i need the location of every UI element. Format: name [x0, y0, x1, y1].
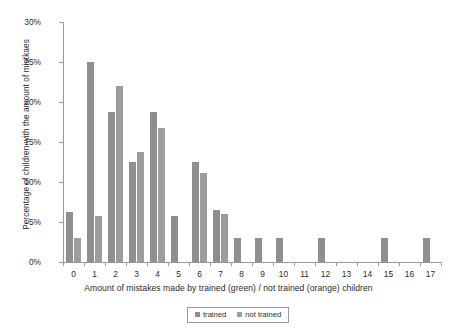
x-axis-tick-label: 11 [300, 269, 309, 279]
y-axis-tick [59, 102, 63, 103]
x-axis-tick-label: 9 [260, 269, 265, 279]
y-axis-tick-label: 5% [1, 217, 41, 227]
legend-item-not-trained: not trained [237, 310, 281, 319]
bar-not-trained-2 [116, 86, 123, 262]
legend-item-trained: trained [195, 310, 226, 319]
legend-label: not trained [245, 310, 281, 319]
x-axis-tick-label: 13 [342, 269, 351, 279]
y-axis-tick-label: 30% [1, 17, 41, 27]
x-axis-tick [315, 262, 316, 266]
x-axis-tick [294, 262, 295, 266]
y-axis-tick [59, 222, 63, 223]
bar-trained-15 [381, 238, 388, 262]
x-axis-tick-label: 4 [155, 269, 160, 279]
y-axis-tick [59, 62, 63, 63]
x-axis-tick [126, 262, 127, 266]
x-axis-tick-label: 3 [134, 269, 139, 279]
x-axis-tick-label: 16 [405, 269, 414, 279]
bar-trained-7 [213, 210, 220, 262]
x-axis-tick-label: 1 [92, 269, 97, 279]
x-axis-tick-label: 17 [426, 269, 435, 279]
x-axis-tick-label: 10 [279, 269, 288, 279]
x-axis-tick-label: 6 [197, 269, 202, 279]
bar-trained-8 [234, 238, 241, 262]
x-axis-tick-label: 14 [363, 269, 372, 279]
bar-not-trained-7 [221, 214, 228, 262]
x-axis-tick-label: 8 [239, 269, 244, 279]
x-axis-tick [420, 262, 421, 266]
x-axis-tick [399, 262, 400, 266]
x-axis-tick [168, 262, 169, 266]
plot-area: 0%5%10%15%20%25%30%012345678910111213141… [63, 22, 441, 262]
x-axis-title: Amount of mistakes made by trained (gree… [0, 283, 457, 293]
x-axis-tick-label: 2 [113, 269, 118, 279]
legend-label: trained [203, 310, 226, 319]
x-axis-tick [63, 262, 64, 266]
y-axis-tick [59, 182, 63, 183]
bar-not-trained-4 [158, 128, 165, 262]
y-axis-tick-label: 15% [1, 137, 41, 147]
bar-trained-5 [171, 216, 178, 262]
x-axis-tick [147, 262, 148, 266]
bar-trained-17 [423, 238, 430, 262]
y-axis-line [63, 22, 64, 262]
x-axis-tick [441, 262, 442, 266]
y-axis-tick-label: 20% [1, 97, 41, 107]
x-axis-tick [378, 262, 379, 266]
bar-trained-12 [318, 238, 325, 262]
bar-trained-6 [192, 162, 199, 262]
x-axis-tick [357, 262, 358, 266]
bar-trained-10 [276, 238, 283, 262]
x-axis-tick-label: 0 [71, 269, 76, 279]
legend-swatch-icon [195, 312, 200, 317]
bar-trained-3 [129, 162, 136, 262]
bar-trained-9 [255, 238, 262, 262]
bar-not-trained-0 [74, 238, 81, 262]
y-axis-tick-label: 25% [1, 57, 41, 67]
x-axis-tick [252, 262, 253, 266]
x-axis-tick [105, 262, 106, 266]
chart-legend: trained not trained [187, 307, 289, 323]
y-axis-tick [59, 142, 63, 143]
x-axis-tick-label: 12 [321, 269, 330, 279]
y-axis-tick-label: 10% [1, 177, 41, 187]
x-axis-tick [231, 262, 232, 266]
bar-not-trained-1 [95, 216, 102, 262]
y-axis-tick [59, 22, 63, 23]
legend-swatch-icon [237, 312, 242, 317]
x-axis-tick-label: 15 [384, 269, 393, 279]
bar-trained-0 [66, 212, 73, 262]
x-axis-tick [189, 262, 190, 266]
bar-trained-2 [108, 112, 115, 262]
x-axis-tick [210, 262, 211, 266]
bar-not-trained-6 [200, 173, 207, 262]
x-axis-tick [336, 262, 337, 266]
bar-chart: Percentage of children with the amount o… [0, 0, 457, 333]
x-axis-tick [273, 262, 274, 266]
bar-trained-1 [87, 62, 94, 262]
y-axis-tick-label: 0% [1, 257, 41, 267]
bar-trained-4 [150, 112, 157, 262]
x-axis-tick-label: 7 [218, 269, 223, 279]
x-axis-tick [84, 262, 85, 266]
bar-not-trained-3 [137, 152, 144, 262]
x-axis-tick-label: 5 [176, 269, 181, 279]
